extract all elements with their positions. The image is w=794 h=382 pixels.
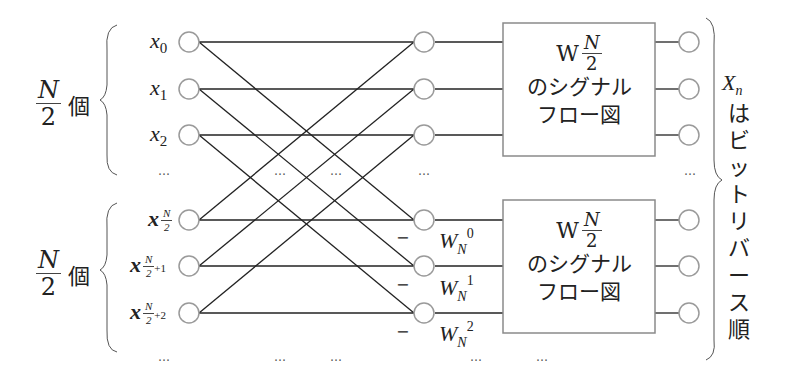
left-brace-bottom [100, 203, 117, 352]
output-node [679, 303, 699, 323]
output-node [679, 256, 699, 276]
output-label-xn: Xn [722, 70, 742, 99]
input-label-xN2: xN2 [148, 206, 172, 233]
block-bottom-label: WN2 のシグナル フロー図 [503, 211, 655, 306]
butterfly-node [414, 303, 434, 323]
output-node [679, 32, 699, 52]
output-description: は ビ ッ ト リ バ ー ス 順 [724, 100, 754, 343]
twiddle-w2: WN2 [439, 319, 474, 351]
twiddle-w0: WN0 [439, 226, 474, 258]
input-label-x0: x0 [150, 28, 167, 57]
group-count-bottom: N2 個 [36, 248, 90, 299]
ellipsis: … [536, 350, 549, 364]
block-top-label: WN2 のシグナル フロー図 [503, 34, 655, 129]
ellipsis: … [274, 164, 287, 178]
input-node [179, 303, 199, 323]
input-label-x1: x1 [150, 75, 167, 104]
butterfly-node [414, 125, 434, 145]
minus-sign: − [396, 322, 409, 341]
input-node [179, 79, 199, 99]
ellipsis: … [418, 164, 431, 178]
minus-sign: − [396, 228, 409, 247]
input-node [179, 32, 199, 52]
left-brace-top [100, 25, 117, 175]
output-node [679, 210, 699, 230]
ellipsis: … [684, 164, 697, 178]
ellipsis: … [158, 164, 171, 178]
input-label-xN2p1: xN2+1 [130, 252, 166, 279]
butterfly-node [414, 79, 434, 99]
butterfly-node [414, 32, 434, 52]
output-node [679, 125, 699, 145]
twiddle-w1: WN1 [439, 273, 474, 305]
butterfly-node [414, 256, 434, 276]
minus-sign: − [396, 275, 409, 294]
group-count-top: N2 個 [36, 78, 90, 129]
right-brace [706, 18, 722, 360]
input-node [179, 256, 199, 276]
ellipsis: … [330, 350, 343, 364]
input-node [179, 125, 199, 145]
ellipsis: … [470, 350, 483, 364]
ellipsis: … [330, 164, 343, 178]
ellipsis: … [158, 350, 171, 364]
input-label-x2: x2 [150, 121, 167, 150]
output-node [679, 79, 699, 99]
butterfly-node [414, 210, 434, 230]
ellipsis: … [274, 350, 287, 364]
input-node [179, 210, 199, 230]
input-label-xN2p2: xN2+2 [130, 299, 166, 326]
